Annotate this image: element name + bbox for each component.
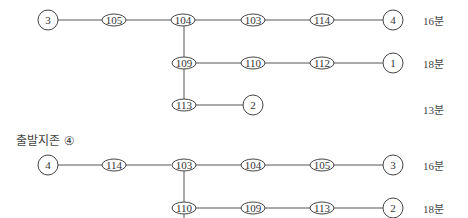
svg-text:4: 4 [390,14,396,26]
svg-text:2: 2 [390,202,396,214]
time-label-a-row2: 18분 [423,55,444,71]
time-label-a-row3: 13분 [423,101,444,117]
svg-text:4: 4 [45,159,51,171]
zone-route-diagram: 3 105 104 103 114 4 109 110 112 1 113 2 … [0,0,468,218]
time-label-b-row2: 18분 [423,200,444,216]
node-a-4: 4 [383,10,403,30]
node-a-2: 2 [243,95,263,115]
node-b-105: 105 [310,159,334,171]
time-label-a-row1: 16분 [423,12,444,28]
node-b-113: 113 [310,202,334,214]
svg-text:1: 1 [390,57,396,69]
svg-text:113: 113 [314,202,331,214]
svg-text:114: 114 [106,159,123,171]
node-a-109: 109 [172,57,196,69]
svg-text:103: 103 [245,14,262,26]
svg-text:103: 103 [176,159,193,171]
node-a-104: 104 [171,14,195,26]
svg-text:112: 112 [314,57,330,69]
svg-text:113: 113 [176,99,193,111]
node-a-103: 103 [241,14,265,26]
svg-text:104: 104 [245,159,262,171]
node-b-110: 110 [172,202,196,214]
node-b-2: 2 [383,198,403,218]
svg-text:109: 109 [176,57,193,69]
svg-text:3: 3 [45,14,51,26]
svg-text:110: 110 [176,202,193,214]
node-b-103: 103 [172,159,196,171]
node-a-114: 114 [310,14,334,26]
node-a-110: 110 [241,57,265,69]
time-label-b-row1: 16분 [423,157,444,173]
node-a-1: 1 [383,53,403,73]
svg-text:114: 114 [314,14,331,26]
node-a-113: 113 [172,99,196,111]
node-b-114: 114 [102,159,126,171]
svg-text:105: 105 [106,14,123,26]
node-a-105: 105 [102,14,126,26]
origin-zone-heading: 출발지존 ④ [16,131,75,148]
node-a-112: 112 [310,57,334,69]
svg-text:110: 110 [245,57,262,69]
node-b-104: 104 [241,159,265,171]
svg-text:3: 3 [390,159,396,171]
svg-text:109: 109 [245,202,262,214]
node-b-109: 109 [241,202,265,214]
node-b-3: 3 [383,155,403,175]
svg-text:2: 2 [250,99,256,111]
svg-text:104: 104 [175,14,192,26]
diagram-b-edges [58,165,383,218]
svg-text:105: 105 [314,159,331,171]
node-b-4: 4 [38,155,58,175]
node-a-3: 3 [38,10,58,30]
